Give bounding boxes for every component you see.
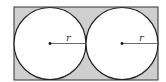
center-dot-left — [49, 42, 52, 45]
center-dot-right — [121, 42, 124, 45]
diagram: r r — [0, 0, 166, 82]
